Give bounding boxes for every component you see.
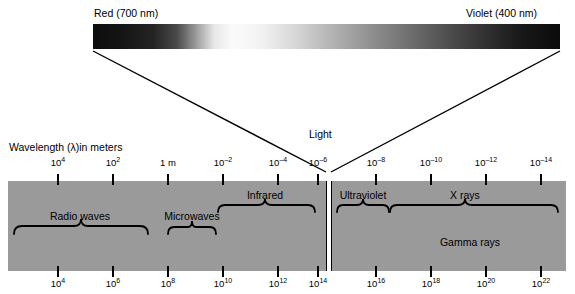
axis-tick-bottom-8 (485, 266, 487, 277)
axis-tick-top-0 (57, 174, 59, 185)
axis-tick-bottom-7 (430, 266, 432, 277)
region-label-microwaves: Microwaves (164, 211, 219, 222)
region-label-radio-waves: Radio waves (50, 211, 110, 222)
axis-tick-label-bottom-5: 1014 (309, 279, 327, 289)
axis-tick-label-bottom-6: 1016 (367, 279, 385, 289)
axis-tick-bottom-3 (222, 266, 224, 277)
axis-tick-label-bottom-1: 106 (106, 279, 120, 289)
region-label-ultraviolet: Ultraviolet (340, 190, 387, 201)
axis-tick-label-top-6: 10–8 (367, 158, 385, 168)
axis-tick-label-bottom-4: 1012 (269, 279, 287, 289)
axis-tick-label-top-7: 10–10 (420, 158, 442, 168)
axis-tick-top-1 (112, 174, 114, 185)
axis-tick-label-top-2: 1 m (160, 158, 176, 168)
axis-tick-label-bottom-7: 1018 (422, 279, 440, 289)
axis-tick-top-8 (485, 174, 487, 185)
axis-tick-top-7 (430, 174, 432, 185)
axis-tick-label-top-9: 10–14 (530, 158, 552, 168)
axis-tick-label-top-0: 104 (51, 158, 65, 168)
axis-tick-bottom-5 (317, 266, 319, 277)
axis-tick-bottom-6 (375, 266, 377, 277)
axis-tick-top-4 (277, 174, 279, 185)
axis-tick-top-2 (167, 174, 169, 185)
axis-tick-bottom-4 (277, 266, 279, 277)
axis-tick-top-6 (375, 174, 377, 185)
axis-tick-top-5 (317, 174, 319, 185)
region-label-x-rays: X rays (450, 190, 480, 201)
region-label-infrared: Infrared (247, 190, 283, 201)
region-label-gamma-rays: Gamma rays (440, 237, 500, 248)
axis-tick-label-top-4: 10–4 (269, 158, 287, 168)
axis-tick-bottom-9 (540, 266, 542, 277)
axis-tick-bottom-2 (167, 266, 169, 277)
axis-tick-label-top-3: 10–2 (214, 158, 232, 168)
axis-tick-top-9 (540, 174, 542, 185)
axis-tick-label-bottom-0: 104 (51, 279, 65, 289)
axis-tick-label-bottom-2: 108 (161, 279, 175, 289)
axis-tick-label-top-8: 10–12 (475, 158, 497, 168)
axis-tick-bottom-1 (112, 266, 114, 277)
axis-tick-label-bottom-8: 1020 (477, 279, 495, 289)
axis-tick-label-top-5: 10–6 (309, 158, 327, 168)
electromagnetic-spectrum-figure: Red (700 nm) Violet (400 nm) Light Wavel… (0, 0, 575, 294)
region-braces (0, 0, 575, 294)
axis-tick-label-top-1: 102 (106, 158, 120, 168)
axis-tick-top-3 (222, 174, 224, 185)
axis-tick-label-bottom-3: 1010 (214, 279, 232, 289)
axis-tick-label-bottom-9: 1022 (532, 279, 550, 289)
axis-tick-bottom-0 (57, 266, 59, 277)
